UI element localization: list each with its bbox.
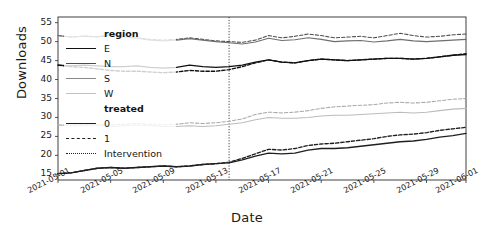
legend-swatch-icon <box>66 93 96 94</box>
legend-entry-label: W <box>104 86 113 101</box>
y-tick-label: 45 <box>24 55 52 65</box>
legend-group-title: region <box>64 26 176 41</box>
legend-group-title: treated <box>64 101 176 116</box>
legend-swatch-icon <box>66 138 96 139</box>
legend-swatch-icon <box>66 153 96 154</box>
legend-entry-label: N <box>104 56 111 71</box>
legend-swatch-icon <box>66 78 96 79</box>
legend-entry[interactable]: S <box>64 71 176 86</box>
chart-figure: Downloads Date 152025303540455055 2021-0… <box>0 0 494 233</box>
legend-entry[interactable]: N <box>64 56 176 71</box>
legend-entry[interactable]: 0 <box>64 116 176 131</box>
legend-entry-label: 0 <box>104 116 110 131</box>
legend-entry[interactable]: Intervention <box>64 146 176 161</box>
legend-entry-label: S <box>104 71 110 86</box>
legend-group-title-text: treated <box>104 101 144 116</box>
legend-entry-label: 1 <box>104 131 110 146</box>
legend-swatch-icon <box>66 123 96 124</box>
chart-legend: regionENSWtreated01Intervention <box>64 24 176 149</box>
legend-swatch-icon <box>66 48 96 49</box>
legend-group-title-text: region <box>104 26 138 41</box>
y-tick-label: 50 <box>24 36 52 46</box>
y-tick-label: 25 <box>24 130 52 140</box>
legend-entry-label: E <box>104 41 110 56</box>
y-tick-label: 30 <box>24 111 52 121</box>
y-tick-label: 35 <box>24 93 52 103</box>
legend-entry[interactable]: E <box>64 41 176 56</box>
y-tick-label: 40 <box>24 74 52 84</box>
legend-entry[interactable]: 1 <box>64 131 176 146</box>
legend-entry-label: Intervention <box>104 146 162 161</box>
y-tick-label: 20 <box>24 149 52 159</box>
legend-swatch-icon <box>66 63 96 64</box>
x-axis-label: Date <box>0 210 494 225</box>
y-tick-label: 55 <box>24 17 52 27</box>
legend-entry[interactable]: W <box>64 86 176 101</box>
